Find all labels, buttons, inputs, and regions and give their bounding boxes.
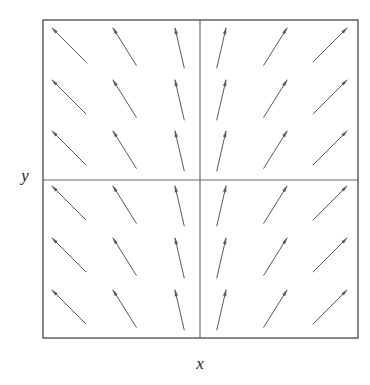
arrow-head <box>223 80 226 86</box>
field-arrow <box>52 131 86 165</box>
arrow-head <box>283 186 287 192</box>
field-arrow <box>313 131 347 165</box>
field-arrow <box>217 80 226 120</box>
field-arrow <box>264 131 287 168</box>
field-arrow <box>175 290 184 330</box>
arrow-shaft <box>313 80 347 114</box>
field-arrow <box>113 290 136 327</box>
field-arrow <box>175 186 184 226</box>
field-arrow <box>113 131 136 168</box>
arrow-shaft <box>52 238 86 272</box>
field-arrow <box>313 238 347 272</box>
field-arrow <box>175 80 184 120</box>
field-arrow <box>113 238 136 275</box>
arrow-head <box>283 131 287 137</box>
field-arrow <box>313 80 347 114</box>
arrow-shaft <box>52 186 86 220</box>
field-arrow <box>175 238 184 278</box>
field-arrow <box>313 28 347 62</box>
arrow-head <box>223 186 226 192</box>
arrow-shaft <box>113 80 136 117</box>
arrow-shaft <box>113 290 136 327</box>
field-arrow <box>264 290 287 327</box>
arrow-head <box>113 290 117 296</box>
field-arrow <box>264 80 287 117</box>
field-arrow <box>264 186 287 223</box>
arrow-head <box>283 290 287 296</box>
arrow-shaft <box>313 238 347 272</box>
arrow-shaft <box>313 290 347 324</box>
arrow-head <box>113 80 117 86</box>
arrow-shaft <box>264 290 287 327</box>
arrow-shaft <box>313 131 347 165</box>
arrow-shaft <box>52 131 86 165</box>
arrow-head <box>175 238 178 244</box>
field-arrow <box>113 80 136 117</box>
arrow-shaft <box>264 28 287 65</box>
arrow-head <box>175 290 178 296</box>
plot-canvas <box>0 0 370 385</box>
arrow-shaft <box>313 186 347 220</box>
field-arrow <box>217 131 226 171</box>
arrow-head <box>223 131 226 137</box>
arrow-head <box>283 238 287 244</box>
axes-group <box>43 20 358 338</box>
field-arrow <box>217 290 226 330</box>
arrow-shaft <box>113 28 136 65</box>
y-axis-label: y <box>14 167 36 184</box>
field-arrow <box>175 131 184 171</box>
field-arrow <box>52 186 86 220</box>
field-arrow <box>113 28 136 65</box>
field-arrow <box>113 186 136 223</box>
arrow-shaft <box>113 238 136 275</box>
arrow-head <box>113 238 117 244</box>
arrow-head <box>223 290 226 296</box>
arrow-shaft <box>264 186 287 223</box>
arrow-head <box>175 80 178 86</box>
arrow-shaft <box>113 131 136 168</box>
arrow-shaft <box>264 80 287 117</box>
field-arrow <box>175 28 184 68</box>
arrow-head <box>175 28 178 34</box>
field-arrow <box>52 290 86 324</box>
arrow-shaft <box>52 28 86 62</box>
field-arrow <box>264 238 287 275</box>
arrow-head <box>175 131 178 137</box>
arrow-head <box>113 186 117 192</box>
field-arrow <box>217 28 226 68</box>
arrow-shaft <box>52 290 86 324</box>
arrow-shaft <box>264 238 287 275</box>
arrow-head <box>223 28 226 34</box>
field-arrow <box>52 238 86 272</box>
field-arrow <box>313 290 347 324</box>
arrow-shaft <box>264 131 287 168</box>
field-arrow <box>217 238 226 278</box>
field-arrow <box>313 186 347 220</box>
field-arrow <box>217 186 226 226</box>
field-arrow <box>264 28 287 65</box>
arrow-shaft <box>52 80 86 114</box>
arrow-head <box>223 238 226 244</box>
direction-field-figure: y x <box>0 0 370 385</box>
arrow-head <box>175 186 178 192</box>
field-arrow <box>52 28 86 62</box>
arrow-head <box>283 80 287 86</box>
field-arrow <box>52 80 86 114</box>
arrow-head <box>113 131 117 137</box>
arrow-head <box>283 28 287 34</box>
arrow-shaft <box>113 186 136 223</box>
arrow-head <box>113 28 117 34</box>
x-axis-label: x <box>189 355 211 372</box>
arrow-shaft <box>313 28 347 62</box>
